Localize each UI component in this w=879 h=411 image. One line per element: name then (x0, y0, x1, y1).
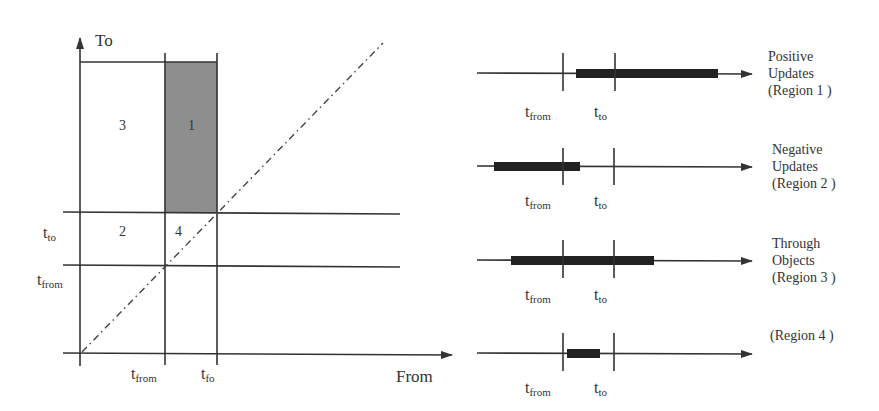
x-tick-t-from: tfrom (131, 365, 157, 384)
svg-text:tto: tto (594, 103, 608, 122)
y-tick-t-from: tfrom (37, 271, 63, 290)
region-4-label: 4 (175, 224, 182, 239)
svg-text:tfrom: tfrom (525, 286, 551, 305)
timeline-negative-updates: tfrom tto NegativeUpdates(Region 2 ) (477, 142, 836, 211)
timeline-positive-updates: tfrom tto PositiveUpdates(Region 1 ) (477, 49, 832, 122)
diagonal-line (82, 43, 383, 352)
svg-text:PositiveUpdates(Region 1 ): PositiveUpdates(Region 1 ) (768, 49, 832, 99)
temporal-regions-diagram: To From 3 1 2 4 tto tfrom tfrom tfo tfro… (0, 0, 879, 411)
region-2-label: 2 (119, 224, 126, 239)
interval-bar (567, 349, 600, 358)
from-to-plane: To From 3 1 2 4 tto tfrom tfrom tfo (37, 31, 452, 386)
x-tick-t-to: tfo (201, 365, 215, 384)
svg-text:tfrom: tfrom (525, 192, 551, 211)
interval-bar (576, 69, 718, 78)
svg-text:tto: tto (594, 192, 608, 211)
x-axis (63, 353, 452, 355)
t-to-horizontal (63, 212, 400, 214)
svg-text:tfrom: tfrom (525, 103, 551, 122)
region-1-label: 1 (188, 118, 195, 133)
t-from-horizontal (63, 265, 400, 267)
timeline-through-objects: tfrom tto ThroughObjects(Region 3 ) (477, 236, 836, 305)
svg-text:tto: tto (594, 379, 608, 398)
svg-text:tto: tto (594, 286, 608, 305)
x-axis-label: From (396, 367, 433, 386)
y-tick-t-to: tto (43, 224, 57, 243)
svg-text:ThroughObjects(Region 3 ): ThroughObjects(Region 3 ) (772, 236, 836, 286)
interval-bar (511, 256, 654, 265)
region-3-label: 3 (119, 118, 126, 133)
svg-text:(Region 4 ): (Region 4 ) (770, 328, 834, 344)
svg-text:tfrom: tfrom (525, 379, 551, 398)
timeline-region-4: tfrom tto (Region 4 ) (477, 328, 834, 398)
region-1-shaded (165, 62, 217, 212)
interval-bar (494, 162, 580, 171)
svg-text:NegativeUpdates(Region 2 ): NegativeUpdates(Region 2 ) (772, 142, 836, 192)
y-axis-label: To (95, 31, 113, 50)
